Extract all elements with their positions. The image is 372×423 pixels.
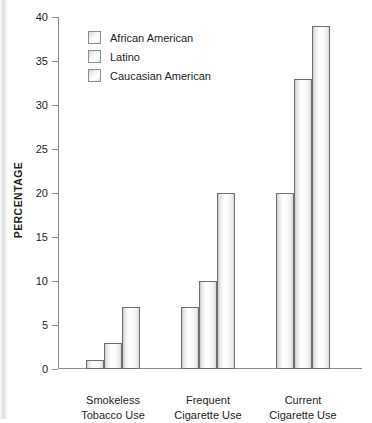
bar [181,307,199,369]
bar [312,26,330,369]
legend-item-label: African American [110,32,193,44]
x-axis-label-line: Current [243,393,363,408]
y-tick-label: 20 [36,187,48,199]
bar [217,193,235,369]
y-axis-title: PERCENTAGE [10,145,26,255]
y-axis-line [58,17,59,369]
y-tick-label: 15 [36,231,48,243]
legend-swatch-african-american [88,31,101,44]
chart-legend: African AmericanLatinoCaucasian American [88,28,238,85]
legend-swatch-latino [88,50,101,63]
legend-item-3: Caucasian American [88,66,238,85]
y-tick-label: 30 [36,99,48,111]
y-tick-mark [52,325,58,326]
y-tick-label: 25 [36,143,48,155]
y-tick-label: 35 [36,55,48,67]
legend-item-2: Latino [88,47,238,66]
y-tick-mark [52,61,58,62]
y-tick-label: 0 [42,363,48,375]
y-tick-mark [52,193,58,194]
legend-swatch-caucasian-american [88,69,101,82]
y-tick-mark [52,149,58,150]
y-tick-mark [52,369,58,370]
bar [276,193,294,369]
x-axis-label-line: Cigarette Use [243,408,363,423]
legend-item-label: Caucasian American [110,70,211,82]
y-tick-mark [52,17,58,18]
bar-group-3 [276,17,330,369]
bar [122,307,140,369]
y-tick-label: 10 [36,275,48,287]
bar [294,79,312,369]
y-axis-title-text: PERCENTAGE [12,162,24,239]
bar [199,281,217,369]
y-tick-mark [52,281,58,282]
y-tick-mark [52,105,58,106]
y-tick-label: 40 [36,11,48,23]
y-tick-label: 5 [42,319,48,331]
x-axis-label-3: CurrentCigarette Use [243,393,363,423]
bar [104,343,122,369]
legend-item-label: Latino [110,51,140,63]
legend-item-1: African American [88,28,238,47]
bar [86,360,104,369]
y-tick-mark [52,237,58,238]
